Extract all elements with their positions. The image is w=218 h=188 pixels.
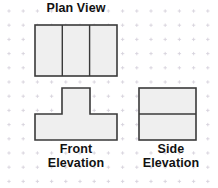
side-elevation-shape-group <box>139 88 196 140</box>
plan-view-shape-group <box>35 25 117 76</box>
plan-view-rectangle <box>35 25 117 76</box>
technical-drawing-sheet: Plan View Front Elevation Side Elevation <box>0 0 218 188</box>
front-elevation-tee-shape <box>35 88 117 140</box>
side-elevation-label: Side Elevation <box>124 143 218 170</box>
front-elevation-label: Front Elevation <box>20 143 132 170</box>
front-elevation-shape-group <box>35 88 117 140</box>
plan-view-title: Plan View <box>20 2 132 16</box>
